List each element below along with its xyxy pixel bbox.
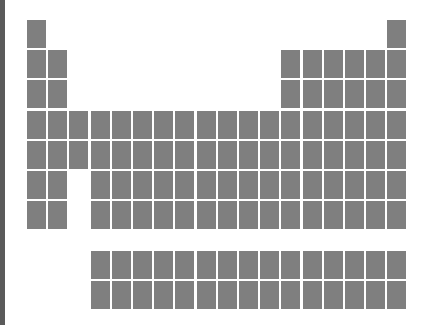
element-cell <box>387 80 406 108</box>
element-cell <box>387 141 406 169</box>
element-cell <box>218 111 237 139</box>
actinide-cell <box>218 281 237 309</box>
lanthanide-cell <box>91 251 110 279</box>
element-cell <box>27 141 46 169</box>
element-cell <box>366 201 385 229</box>
element-cell <box>387 201 406 229</box>
lanthanide-cell <box>366 251 385 279</box>
element-cell <box>27 171 46 199</box>
lanthanide-cell <box>303 251 322 279</box>
element-cell <box>197 111 216 139</box>
actinide-cell <box>387 281 406 309</box>
element-cell <box>303 80 322 108</box>
element-cell <box>218 141 237 169</box>
actinide-cell <box>91 281 110 309</box>
element-cell <box>154 141 173 169</box>
periodic-table-grid <box>0 0 434 325</box>
element-cell <box>27 111 46 139</box>
actinide-cell <box>281 281 300 309</box>
element-cell <box>387 111 406 139</box>
element-cell <box>303 111 322 139</box>
lanthanide-cell <box>133 251 152 279</box>
element-cell <box>324 111 343 139</box>
element-cell <box>281 80 300 108</box>
element-cell <box>345 80 364 108</box>
element-cell <box>324 80 343 108</box>
element-cell <box>112 141 131 169</box>
element-cell <box>260 141 279 169</box>
element-cell <box>48 141 67 169</box>
element-cell <box>345 111 364 139</box>
element-cell <box>91 201 110 229</box>
lanthanide-cell <box>324 251 343 279</box>
element-cell <box>112 171 131 199</box>
element-cell <box>69 111 88 139</box>
lanthanide-cell <box>239 251 258 279</box>
element-cell <box>48 171 67 199</box>
element-cell <box>366 80 385 108</box>
element-cell <box>303 141 322 169</box>
element-cell <box>345 171 364 199</box>
element-cell <box>260 201 279 229</box>
element-cell <box>91 111 110 139</box>
actinide-cell <box>112 281 131 309</box>
element-cell <box>48 111 67 139</box>
lanthanide-cell <box>197 251 216 279</box>
element-cell <box>260 111 279 139</box>
actinide-cell <box>175 281 194 309</box>
actinide-cell <box>366 281 385 309</box>
element-cell <box>27 50 46 78</box>
element-cell <box>345 141 364 169</box>
element-cell <box>281 141 300 169</box>
lanthanide-cell <box>260 251 279 279</box>
element-cell <box>324 201 343 229</box>
element-cell <box>197 141 216 169</box>
element-cell <box>112 201 131 229</box>
element-cell <box>133 111 152 139</box>
actinide-cell <box>260 281 279 309</box>
element-cell <box>281 111 300 139</box>
element-cell <box>197 171 216 199</box>
element-cell <box>27 80 46 108</box>
element-cell <box>239 111 258 139</box>
element-cell <box>175 201 194 229</box>
element-cell <box>345 50 364 78</box>
element-cell <box>345 201 364 229</box>
element-cell <box>324 50 343 78</box>
element-cell <box>48 50 67 78</box>
element-cell <box>133 201 152 229</box>
element-cell <box>387 171 406 199</box>
lanthanide-cell <box>281 251 300 279</box>
lanthanide-cell <box>175 251 194 279</box>
lanthanide-cell <box>112 251 131 279</box>
element-cell <box>260 171 279 199</box>
element-cell <box>366 50 385 78</box>
element-cell <box>112 111 131 139</box>
element-cell <box>366 141 385 169</box>
element-cell <box>197 201 216 229</box>
element-cell <box>133 141 152 169</box>
element-cell <box>27 20 46 48</box>
element-cell <box>175 111 194 139</box>
lanthanide-cell <box>345 251 364 279</box>
element-cell <box>48 80 67 108</box>
lanthanide-cell <box>154 251 173 279</box>
element-cell <box>324 171 343 199</box>
element-cell <box>387 20 406 48</box>
actinide-cell <box>324 281 343 309</box>
actinide-cell <box>239 281 258 309</box>
element-cell <box>154 201 173 229</box>
element-cell <box>281 171 300 199</box>
element-cell <box>133 171 152 199</box>
element-cell <box>27 201 46 229</box>
element-cell <box>387 50 406 78</box>
element-cell <box>218 171 237 199</box>
actinide-cell <box>197 281 216 309</box>
element-cell <box>48 201 67 229</box>
element-cell <box>239 171 258 199</box>
actinide-cell <box>345 281 364 309</box>
element-cell <box>303 171 322 199</box>
element-cell <box>69 141 88 169</box>
actinide-cell <box>303 281 322 309</box>
element-cell <box>218 201 237 229</box>
